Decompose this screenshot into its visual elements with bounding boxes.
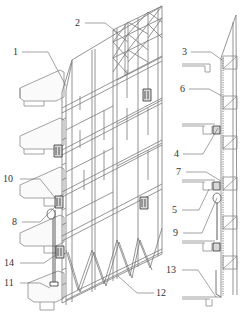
leader-line-13	[182, 270, 216, 297]
leader-line-9	[183, 198, 217, 233]
callout-label-1: 1	[13, 47, 18, 57]
callout-label-6: 6	[180, 84, 185, 94]
leader-line-12	[118, 276, 154, 293]
top-braced-panel	[113, 6, 162, 76]
callout-label-13: 13	[166, 265, 176, 275]
scaffold-patent-figure	[0, 0, 246, 315]
callout-label-11: 11	[4, 278, 14, 288]
callout-label-2: 2	[75, 18, 80, 28]
scaffold-drawing	[0, 0, 246, 315]
leader-line-14	[20, 254, 57, 263]
callout-label-12: 12	[156, 288, 166, 298]
callout-label-3: 3	[182, 47, 187, 57]
callout-label-7: 7	[176, 167, 181, 177]
callout-label-9: 9	[173, 228, 178, 238]
leader-line-3	[191, 52, 222, 60]
floor-slabs	[20, 70, 64, 310]
callout-label-14: 14	[4, 258, 14, 268]
callout-label-5: 5	[172, 205, 177, 215]
callout-label-8: 8	[12, 217, 17, 227]
leader-line-6	[189, 89, 222, 96]
callout-label-10: 10	[3, 174, 13, 184]
callout-label-4: 4	[174, 149, 179, 159]
side-elevation	[182, 15, 237, 306]
leader-line-5	[182, 189, 209, 210]
